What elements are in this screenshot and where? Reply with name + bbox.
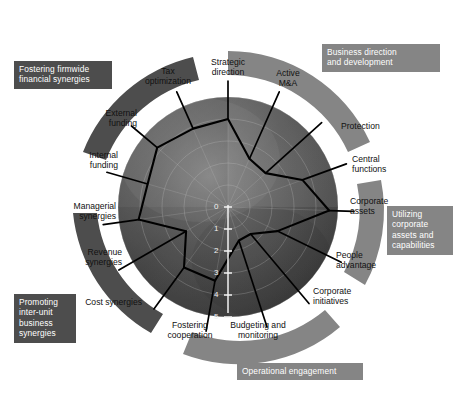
arc-label-line: synergies <box>19 328 71 338</box>
spoke-label-active-ma: ActiveM&A <box>228 69 348 89</box>
spoke-label-central-functions: Centralfunctions <box>352 155 386 175</box>
spoke-label-external-funding: Externalfunding <box>0 109 137 129</box>
arc-label-utilizing-corporate-assets: Utilizing corporate assets and capabilit… <box>387 206 453 255</box>
spoke-label-line: synergies <box>0 258 122 268</box>
spoke-label-corporate-assets: Corporateassets <box>350 197 388 217</box>
spoke-label-line: M&A <box>228 79 348 89</box>
diagram-canvas: Business direction and development Utili… <box>0 0 459 418</box>
spoke-label-line: assets <box>350 207 388 217</box>
spoke-label-tax-optimization: Taxoptimization <box>108 67 228 87</box>
arc-label-business-direction: Business direction and development <box>322 44 440 72</box>
scale-numeral-3: 3 <box>214 269 218 277</box>
spoke-label-line: synergies <box>0 212 116 222</box>
spoke-label-line: funding <box>0 161 118 171</box>
spoke-label-managerial-synergies: Managerialsynergies <box>0 202 116 222</box>
spoke-label-line: advantage <box>336 261 376 271</box>
arc-label-fostering-firmwide: Fostering firmwide financial synergies <box>14 61 112 89</box>
spoke-label-internal-funding: Internalfunding <box>0 151 118 171</box>
arc-label-line: Fostering firmwide <box>19 64 107 74</box>
arc-label-line: corporate <box>392 219 448 229</box>
scale-numeral-0: 0 <box>214 203 218 211</box>
arc-label-line: financial synergies <box>19 74 107 84</box>
spoke-label-line: funding <box>0 119 137 129</box>
spoke-label-fostering-cooperation: Fosteringcooperation <box>130 321 250 341</box>
spoke-label-line: Cost synergies <box>0 298 142 308</box>
spoke-label-line: initiatives <box>313 297 351 307</box>
scale-numeral-2: 2 <box>214 247 218 255</box>
arc-label-line: Utilizing <box>392 209 448 219</box>
arc-label-line: Operational engagement <box>242 366 358 376</box>
arc-label-line: inter-unit <box>19 307 71 317</box>
scale-numeral-5: 5 <box>214 313 218 321</box>
arc-label-operational-engagement: Operational engagement <box>237 363 363 380</box>
spoke-label-line: functions <box>352 165 386 175</box>
spoke-label-line: Protection <box>341 122 380 132</box>
arc-label-line: assets and <box>392 230 448 240</box>
spoke-label-corporate-initiatives: Corporateinitiatives <box>313 287 351 307</box>
scale-numeral-4: 4 <box>214 291 218 299</box>
spoke-label-protection: Protection <box>341 122 380 132</box>
spoke-label-revenue-synergies: Revenuesynergies <box>0 248 122 268</box>
spoke-label-line: cooperation <box>130 331 250 341</box>
arc-label-line: Business direction <box>327 47 435 57</box>
arc-label-line: and development <box>327 57 435 67</box>
spoke-label-cost-synergies: Cost synergies <box>0 298 142 308</box>
scale-numeral-1: 1 <box>214 225 218 233</box>
spoke-label-people-advantage: Peopleadvantage <box>336 251 376 271</box>
spoke-label-line: optimization <box>108 77 228 87</box>
arc-label-line: capabilities <box>392 240 448 250</box>
arc-label-line: business <box>19 318 71 328</box>
